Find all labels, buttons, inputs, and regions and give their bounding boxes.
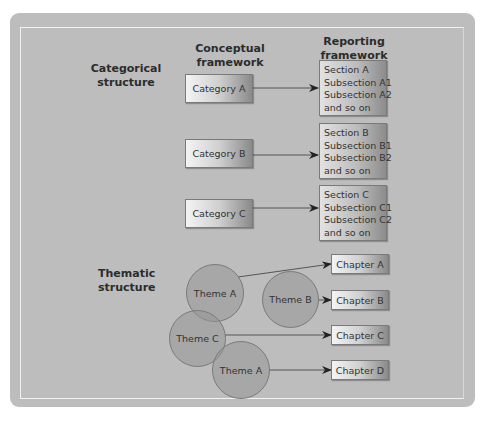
theme-a-circle-bottom: Theme A [212,341,270,399]
report-section-b: Section B Subsection B1 Subsection B2 an… [319,123,387,179]
chapter-c-box: Chapter C [331,325,389,345]
category-a-box: Category A [185,74,253,103]
chapter-d-box: Chapter D [331,360,389,380]
report-section-a: Section A Subsection A1 Subsection A2 an… [319,60,387,116]
theme-b-circle: Theme B [262,271,319,328]
category-b-box: Category B [185,139,253,168]
chapter-b-box: Chapter B [331,290,389,310]
category-c-box: Category C [185,199,253,228]
chapter-a-box: Chapter A [331,254,389,274]
report-section-c: Section C Subsection C1 Subsection C2 an… [319,185,387,241]
